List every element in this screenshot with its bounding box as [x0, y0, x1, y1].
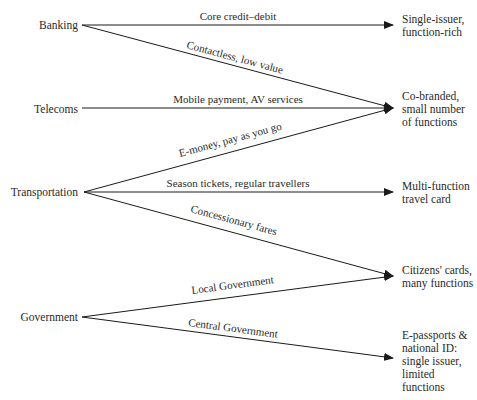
edge-label-core-credit-debit: Core credit–debit [200, 10, 277, 22]
edge-label-local-government: Local Government [191, 273, 275, 296]
target-single-issuer: Single-issuer, function-rich [402, 13, 477, 39]
card-market-diagram: Banking Telecoms Transportation Governme… [0, 0, 477, 400]
target-e-passports: E-passports & national ID: single issuer… [402, 329, 477, 394]
edge-label-e-money: E-money, pay as you go [177, 119, 283, 158]
edge-transport-citizens-cards [84, 192, 393, 276]
edge-label-central-government: Central Government [188, 316, 279, 340]
target-multi-function: Multi-function travel card [402, 180, 477, 206]
target-co-branded: Co-branded, small number of functions [402, 90, 477, 129]
edge-label-season-tickets: Season tickets, regular travellers [167, 177, 310, 189]
target-citizens-cards: Citizens' cards, many functions [402, 264, 477, 290]
edge-label-mobile-payment: Mobile payment, AV services [173, 93, 303, 105]
edge-label-concessionary: Concessionary fares [189, 202, 278, 237]
